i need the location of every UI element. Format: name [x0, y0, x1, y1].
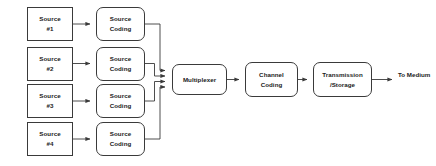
- node-source-3[interactable]: Source #3: [27, 84, 73, 118]
- node-source-4[interactable]: Source #4: [27, 122, 73, 156]
- node-channel-coding-line2: Coding: [261, 80, 283, 90]
- node-transmission-storage[interactable]: Transmission /Storage: [313, 62, 372, 97]
- node-source-coding-4[interactable]: Source Coding: [96, 122, 145, 156]
- node-source-2[interactable]: Source #2: [27, 47, 73, 81]
- node-channel-coding[interactable]: Channel Coding: [245, 62, 298, 97]
- node-transmission-storage-line1: Transmission: [322, 70, 363, 80]
- node-source-3-line2: #3: [47, 101, 54, 111]
- node-source-coding-4-line1: Source: [110, 129, 131, 139]
- node-transmission-storage-line2: /Storage: [330, 80, 355, 90]
- edge-coding4-to-mux: [145, 87, 165, 139]
- node-source-coding-1[interactable]: Source Coding: [96, 7, 145, 41]
- node-source-coding-1-line1: Source: [110, 14, 131, 24]
- label-to-medium: To Medium: [398, 70, 430, 80]
- node-source-coding-2-line2: Coding: [110, 64, 132, 74]
- block-diagram: Source #1 Source #2 Source #3 Source #4 …: [0, 0, 436, 166]
- node-source-1[interactable]: Source #1: [27, 7, 73, 41]
- node-source-2-line1: Source: [39, 54, 60, 64]
- label-to-medium-line1: To: [398, 71, 405, 78]
- node-multiplexer[interactable]: Multiplexer: [172, 64, 227, 95]
- node-source-coding-2[interactable]: Source Coding: [96, 47, 145, 81]
- node-source-coding-3-line1: Source: [110, 91, 131, 101]
- node-source-4-line1: Source: [39, 129, 60, 139]
- node-source-1-line1: Source: [39, 14, 60, 24]
- node-source-4-line2: #4: [47, 139, 54, 149]
- node-source-coding-2-line1: Source: [110, 54, 131, 64]
- edge-coding2-to-mux: [145, 64, 165, 77]
- edge-coding3-to-mux: [145, 82, 165, 102]
- node-source-coding-1-line2: Coding: [110, 24, 132, 34]
- node-source-coding-3-line2: Coding: [110, 101, 132, 111]
- node-source-1-line2: #1: [47, 24, 54, 34]
- node-source-3-line1: Source: [39, 91, 60, 101]
- node-source-2-line2: #2: [47, 64, 54, 74]
- node-multiplexer-line1: Multiplexer: [183, 75, 216, 85]
- label-to-medium-line2: Medium: [407, 71, 430, 78]
- node-source-coding-4-line2: Coding: [110, 139, 132, 149]
- node-source-coding-3[interactable]: Source Coding: [96, 84, 145, 118]
- node-channel-coding-line1: Channel: [259, 70, 284, 80]
